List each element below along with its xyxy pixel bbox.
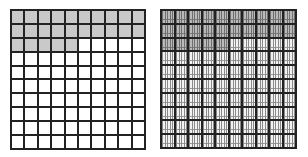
grid-cell (203, 121, 215, 133)
grid-cell (66, 136, 77, 148)
shaded-cell (66, 39, 77, 51)
grid-cell (162, 121, 174, 133)
shaded-cell (39, 39, 50, 51)
grid-cell (52, 108, 63, 120)
grid-cell (162, 135, 174, 147)
shaded-cell (203, 11, 215, 23)
grid-cell (176, 80, 188, 92)
grid-cell (257, 135, 269, 147)
grid-cell (243, 39, 255, 51)
grid-cell (119, 39, 130, 51)
grid-cell (162, 80, 174, 92)
grid-cell (203, 135, 215, 147)
grid-cell (176, 94, 188, 106)
shaded-cell (176, 25, 188, 37)
grid-cell (52, 67, 63, 79)
grid-cell (39, 67, 50, 79)
grid-cell (189, 108, 201, 120)
shaded-cell (189, 11, 201, 23)
grid-cell (92, 94, 103, 106)
grid-cell (133, 122, 144, 134)
grid-cell (216, 80, 228, 92)
grid-cell (230, 94, 242, 106)
grid-cell (230, 80, 242, 92)
grid-cell (216, 108, 228, 120)
grid-cell (257, 39, 269, 51)
shaded-cell (79, 11, 90, 23)
grid-cell (243, 94, 255, 106)
grid-cell (106, 108, 117, 120)
shaded-cell (176, 39, 188, 51)
grid-cell (230, 108, 242, 120)
grid-cell (203, 66, 215, 78)
shaded-cell (92, 25, 103, 37)
shaded-cell (162, 25, 174, 37)
shaded-cell (25, 39, 36, 51)
grid-cell (25, 67, 36, 79)
shaded-cell (203, 39, 215, 51)
grid-cell (12, 53, 23, 65)
shaded-cell (39, 25, 50, 37)
shaded-cell (92, 11, 103, 23)
shaded-cell (243, 11, 255, 23)
grid-cell (92, 136, 103, 148)
shaded-cell (79, 25, 90, 37)
grid-cell (203, 52, 215, 64)
shaded-cell (12, 25, 23, 37)
grid-cell (25, 53, 36, 65)
grid-cell (39, 136, 50, 148)
shaded-cell (270, 25, 282, 37)
grid-cell (176, 135, 188, 147)
grid-cell (119, 80, 130, 92)
shaded-cell (162, 11, 174, 23)
grid-cell (92, 108, 103, 120)
grid-cell (79, 136, 90, 148)
shaded-cell (133, 11, 144, 23)
grid-cell (243, 66, 255, 78)
shaded-cell (106, 11, 117, 23)
grid-cell (162, 66, 174, 78)
grid-cell (79, 80, 90, 92)
shaded-cell (216, 11, 228, 23)
shaded-cell (284, 11, 296, 23)
shaded-cell (203, 25, 215, 37)
grid-cell (284, 39, 296, 51)
grid-cell (230, 66, 242, 78)
shaded-cell (189, 39, 201, 51)
grid-cell (257, 121, 269, 133)
grid-cell (106, 39, 117, 51)
grid-cell (176, 52, 188, 64)
grid-cell (216, 135, 228, 147)
grid-cell (284, 135, 296, 147)
grid-cell (189, 121, 201, 133)
grid-cell (119, 108, 130, 120)
grid-cell (52, 136, 63, 148)
grid-cell (189, 52, 201, 64)
grid-cell (12, 122, 23, 134)
grid-cell (52, 80, 63, 92)
grid-cell (243, 135, 255, 147)
shaded-cell (12, 11, 23, 23)
grid-cell (25, 122, 36, 134)
grid-cell (257, 80, 269, 92)
grid-cell (270, 80, 282, 92)
grid-cell (270, 94, 282, 106)
grid-cell (119, 122, 130, 134)
grid-cell (216, 94, 228, 106)
grid-cell (25, 80, 36, 92)
grid-cell (230, 135, 242, 147)
grid-cell (133, 94, 144, 106)
grid-cell (133, 108, 144, 120)
grid-cell (66, 67, 77, 79)
grid-cell (257, 94, 269, 106)
grid-cell (284, 121, 296, 133)
shaded-cell (52, 39, 63, 51)
shaded-cell (162, 39, 174, 51)
grid-cell (257, 52, 269, 64)
grid-cell (243, 80, 255, 92)
grid-cell (284, 94, 296, 106)
grid-cell (270, 52, 282, 64)
shaded-cell (257, 11, 269, 23)
grid-cell (79, 122, 90, 134)
grid-cell (25, 94, 36, 106)
